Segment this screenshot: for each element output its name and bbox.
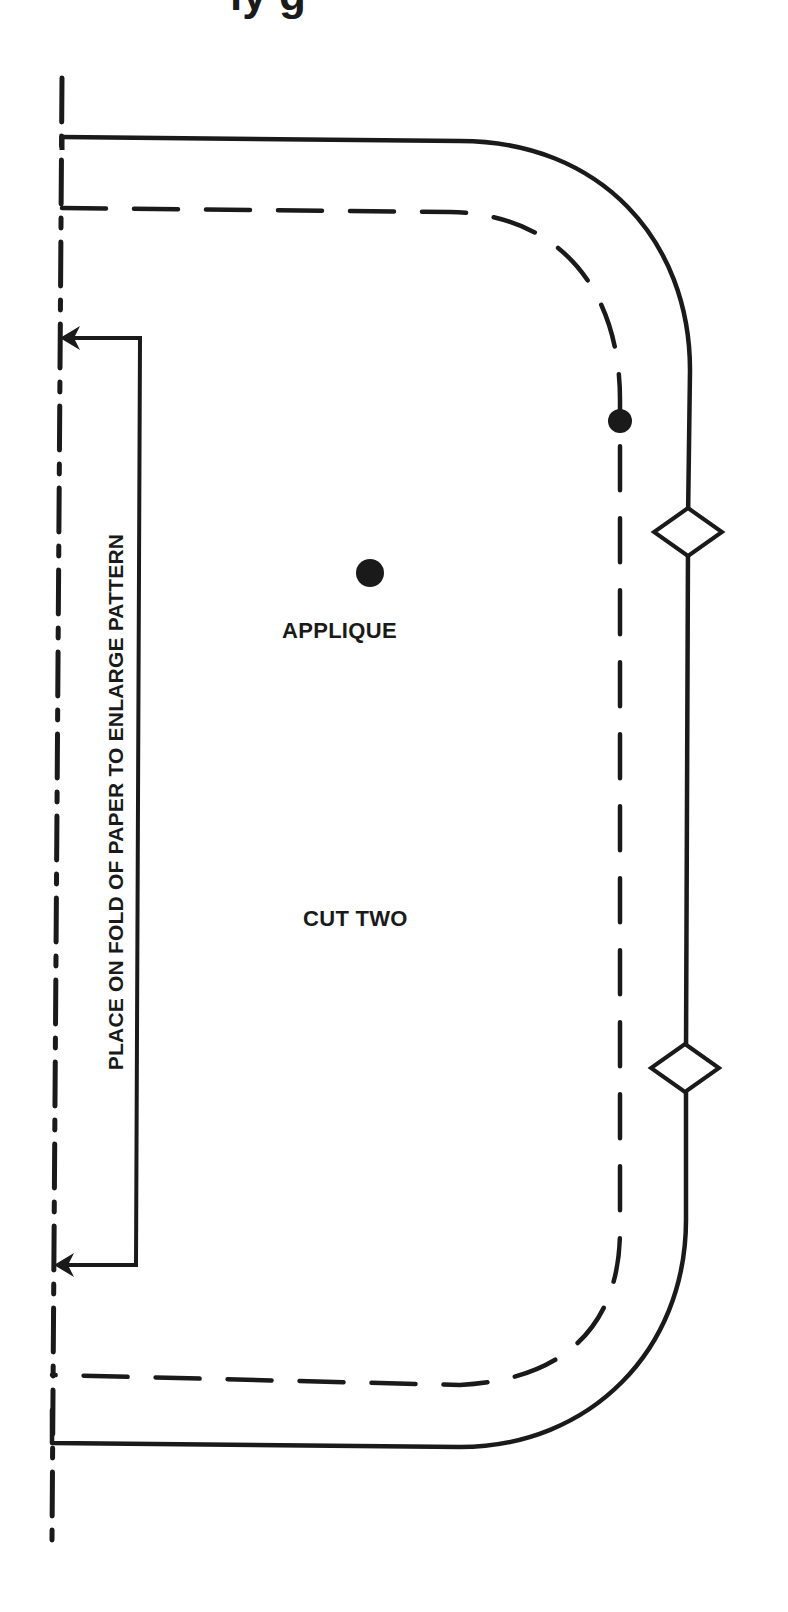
- notch-diamond-upper-icon: [654, 508, 722, 556]
- fold-bracket: [66, 338, 140, 1265]
- cut-instruction-label: CUT TWO: [303, 906, 408, 932]
- fold-line: [52, 78, 62, 1540]
- notch-diamond-lower-icon: [651, 1044, 719, 1092]
- fold-instruction-label: PLACE ON FOLD OF PAPER TO ENLARGE PATTER…: [104, 534, 128, 1070]
- applique-label: APPLIQUE: [282, 618, 397, 644]
- cutting-line: [52, 137, 690, 1447]
- match-dot-icon: [608, 409, 632, 433]
- applique-dot-icon: [356, 559, 384, 587]
